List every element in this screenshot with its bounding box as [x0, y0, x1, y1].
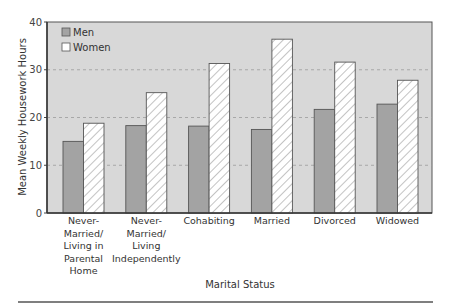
bar-women	[146, 93, 167, 213]
bar-men	[251, 129, 272, 213]
legend-swatch-men	[62, 28, 70, 36]
x-category-label: Living in	[64, 240, 104, 251]
x-category-label: Never-	[131, 215, 162, 226]
x-category-label: Never-	[68, 215, 99, 226]
bar-men	[126, 126, 147, 213]
y-tick-label: 0	[36, 208, 42, 219]
y-tick-label: 40	[29, 17, 42, 28]
y-axis-title: Mean Weekly Housework Hours	[17, 38, 28, 196]
x-category-label: Married	[254, 215, 290, 226]
x-category-label: Home	[69, 265, 97, 276]
bar-men	[377, 104, 398, 213]
y-axis-ticks: 010203040	[29, 17, 47, 219]
x-axis-title: Marital Status	[205, 279, 275, 290]
y-tick-label: 10	[29, 160, 42, 171]
bar-men	[63, 141, 84, 213]
x-category-label: Married/	[64, 228, 104, 239]
x-category-label: Widowed	[376, 215, 419, 226]
bar-men	[314, 109, 335, 213]
legend-label-men: Men	[73, 27, 94, 38]
x-category-label: Living	[132, 240, 160, 251]
x-category-label: Parental	[64, 253, 103, 264]
bar-women	[84, 123, 105, 213]
bar-chart: 010203040 Never-Married/Living inParenta…	[0, 0, 450, 307]
bar-women	[209, 64, 230, 213]
x-category-label: Cohabiting	[183, 215, 234, 226]
bar-women	[398, 80, 419, 213]
legend-swatch-women	[62, 43, 70, 51]
legend-label-women: Women	[73, 42, 111, 53]
bar-women	[335, 62, 356, 213]
x-axis-category-labels: Never-Married/Living inParentalHomeNever…	[64, 215, 420, 276]
x-category-label: Independently	[112, 253, 181, 264]
bar-women	[272, 39, 293, 213]
y-tick-label: 20	[29, 112, 42, 123]
bar-men	[189, 126, 210, 213]
x-category-label: Divorced	[314, 215, 356, 226]
y-tick-label: 30	[29, 64, 42, 75]
x-category-label: Married/	[127, 228, 167, 239]
